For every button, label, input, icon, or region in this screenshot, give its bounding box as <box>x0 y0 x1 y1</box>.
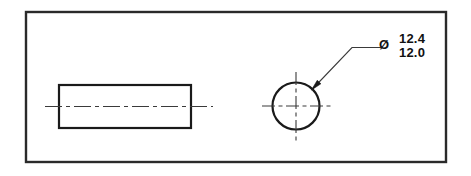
diameter-dimension: Ø 12.4 12.0 <box>379 31 426 60</box>
side-view <box>45 85 213 128</box>
end-view <box>262 72 331 141</box>
diameter-symbol-icon: Ø <box>379 37 389 52</box>
drawing-frame <box>26 12 446 162</box>
diameter-leader <box>312 48 382 91</box>
technical-drawing-page: Ø 12.4 12.0 <box>0 0 471 176</box>
drawing-canvas: Ø 12.4 12.0 <box>0 0 471 176</box>
upper-limit-value: 12.4 <box>399 31 426 46</box>
lower-limit-value: 12.0 <box>399 45 425 60</box>
leader-line <box>312 48 382 91</box>
